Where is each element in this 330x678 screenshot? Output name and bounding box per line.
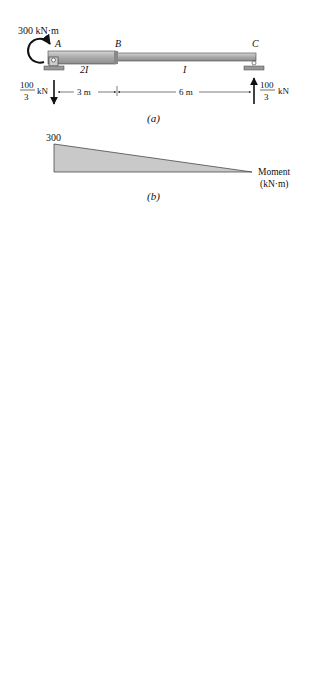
caption-a: (a): [147, 112, 160, 125]
reaction-C-num: 100: [260, 80, 274, 90]
figure-b: 300 Moment (kN·m) (b): [46, 132, 291, 203]
reaction-A: 100 3 kN: [20, 80, 54, 104]
node-A-label: A: [54, 38, 62, 49]
inertia-BC-label: I: [182, 64, 187, 75]
dim-BC: 6 m: [179, 87, 193, 97]
figure-c: [54, 262, 119, 286]
figure-a: 300 kN·m A B C 2I I 100 3 kN 1: [18, 25, 290, 125]
reaction-C: 100 3 kN: [254, 78, 290, 104]
reaction-A-unit: kN: [37, 86, 49, 96]
inertia-AB-label: 2I: [80, 64, 89, 75]
reaction-A-den: 3: [24, 92, 29, 102]
diagram-canvas: 300 kN·m A B C 2I I 100 3 kN 1: [0, 0, 330, 678]
dim-AB: 3 m: [77, 87, 91, 97]
roller-support-C-icon: [244, 61, 264, 70]
moment-diagram-area: [54, 144, 252, 172]
moment-peak-label: 300: [46, 132, 61, 143]
applied-moment-icon: [28, 39, 50, 63]
reaction-A-num: 100: [20, 80, 34, 90]
moment-label-line1: Moment: [258, 167, 291, 177]
node-C-label: C: [252, 38, 259, 49]
caption-b: (b): [147, 190, 160, 203]
beam-transition: [114, 51, 118, 64]
reaction-C-den: 3: [264, 92, 269, 102]
reaction-C-unit: kN: [278, 86, 290, 96]
beam-segment-BC: [116, 53, 256, 61]
node-B-label: B: [115, 38, 121, 49]
moment-label-line2: (kN·m): [260, 179, 289, 190]
applied-moment-label: 300 kN·m: [18, 25, 59, 36]
